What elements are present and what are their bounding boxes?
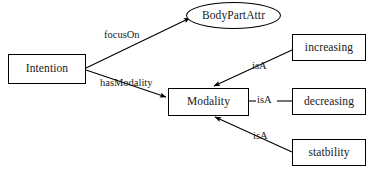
node-statbility-label: statbility: [308, 147, 349, 159]
node-increasing-label: increasing: [305, 42, 353, 54]
node-intention-label: Intention: [26, 63, 68, 75]
node-modality-label: Modality: [187, 96, 230, 108]
node-bodypartattr-label: BodyPartAttr: [202, 10, 265, 22]
edge-label-isa-increasing: isA: [252, 61, 267, 72]
edge-label-focuson: focusOn: [104, 30, 140, 41]
node-increasing[interactable]: increasing: [292, 34, 366, 61]
edge-label-isa-decreasing: isA: [257, 95, 272, 106]
node-intention[interactable]: Intention: [8, 54, 86, 84]
node-decreasing[interactable]: decreasing: [292, 88, 366, 115]
node-modality[interactable]: Modality: [168, 88, 249, 116]
node-decreasing-label: decreasing: [304, 96, 354, 108]
edge-label-hasmodality: hasModality: [100, 78, 153, 89]
edge-focuson-line: [86, 18, 190, 68]
node-bodypartattr[interactable]: BodyPartAttr: [186, 2, 281, 29]
node-statbility[interactable]: statbility: [292, 139, 366, 166]
diagram-canvas: Intention BodyPartAttr Modality increasi…: [0, 0, 367, 181]
edge-label-isa-statbility: isA: [253, 131, 268, 142]
